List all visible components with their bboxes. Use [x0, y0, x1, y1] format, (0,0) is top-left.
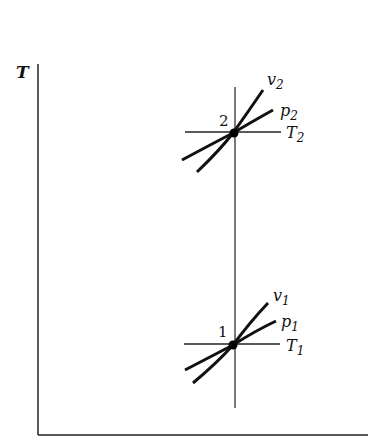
- state-1-point: [229, 341, 238, 350]
- T2-label: T2: [286, 123, 304, 145]
- y-axis-label: T: [16, 62, 30, 82]
- t-state-diagram: T 2 v2 p2 T2 1 v1 p1 T1: [0, 0, 371, 440]
- state-1-number: 1: [218, 323, 228, 341]
- p1-label: p1: [281, 312, 299, 334]
- state-2-group: 2 v2 p2 T2: [182, 70, 304, 172]
- state-1-group: 1 v1 p1 T1: [184, 286, 304, 383]
- T1-label: T1: [286, 336, 304, 358]
- p2-label: p2: [280, 101, 298, 123]
- state-2-point: [230, 129, 239, 138]
- state-2-number: 2: [219, 112, 229, 130]
- v2-label: v2: [267, 70, 284, 92]
- v1-label: v1: [273, 286, 290, 308]
